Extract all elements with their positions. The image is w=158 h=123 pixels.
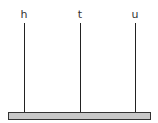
branch-line-t xyxy=(80,23,81,112)
leaf-label-h: h xyxy=(16,9,32,21)
base-bar xyxy=(8,112,151,120)
leaf-label-u: u xyxy=(127,9,143,21)
branch-line-u xyxy=(135,23,136,112)
branch-line-h xyxy=(24,23,25,112)
leaf-label-t: t xyxy=(72,9,88,21)
